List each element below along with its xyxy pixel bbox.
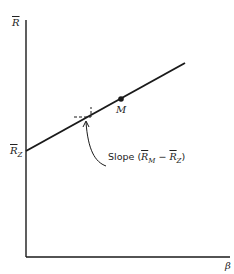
x-axis-label: β [225, 261, 231, 271]
y-axis-label: R [12, 18, 20, 28]
diagram-canvas [0, 0, 234, 274]
security-market-line [26, 63, 185, 151]
slope-arrow [86, 122, 106, 166]
slope-annotation: Slope (RM − RZ) [108, 152, 185, 165]
point-m-label: M [116, 105, 126, 115]
market-point-m [118, 96, 124, 102]
intercept-label: RZ [10, 146, 22, 159]
